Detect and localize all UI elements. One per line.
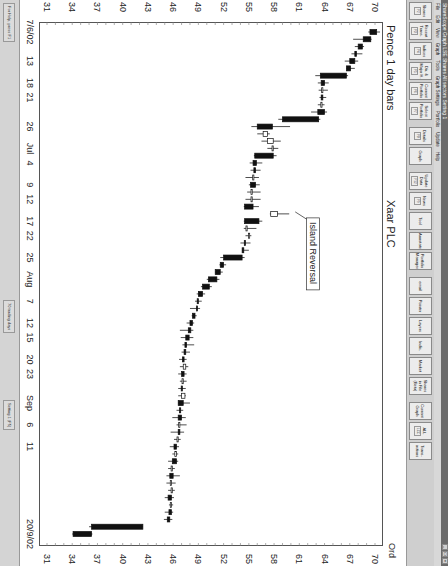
- toolbar-button-label: Graph: [418, 150, 423, 161]
- toolbar-button-label: Portfolio Manager: [416, 253, 426, 269]
- rotated-screenshot: ShareScope Graph LSE Shares All sectors …: [0, 0, 448, 566]
- status-bar: For Help, press F1 70 trading days Setti…: [0, 0, 20, 566]
- menu-bar: File Edit View Graph Tools Graph Setting…: [434, 0, 441, 566]
- toolbar-button-label: Dir. & Major H.: [420, 63, 430, 79]
- menu-portfolio[interactable]: Portfolio: [434, 111, 441, 128]
- shortcut-key-label: F3: [412, 27, 419, 35]
- window-title: ShareScope Graph LSE Shares All sectors …: [442, 3, 448, 119]
- shortcut-key-label: F7: [412, 107, 419, 115]
- toolbar-button-label: Update Data: [420, 173, 430, 189]
- window-controls: _ □ ×: [441, 544, 448, 564]
- shortcut-key-label: F5: [412, 67, 419, 75]
- toolbar-button-news[interactable]: NewsF9: [409, 192, 432, 210]
- toolbar-button-label: News: [422, 196, 427, 206]
- menu-graph[interactable]: Graph: [434, 43, 441, 56]
- toolbar-button-shares[interactable]: SharesF2: [409, 2, 432, 20]
- toolbar-button-recent-trans[interactable]: Recent Trans.F3: [409, 22, 432, 40]
- toolbar-button-label: Annotate: [418, 233, 423, 249]
- island-reversal-annotation: Island Reversal: [307, 222, 317, 284]
- toolbar-button-label: Trans-actions: [416, 443, 426, 459]
- shortcut-key-label: F6: [412, 87, 419, 95]
- shortcut-key-label: F12: [412, 176, 419, 185]
- toolbar-button-portfolio-manager[interactable]: Portfolio Manager: [409, 252, 432, 270]
- toolbar-button-tool[interactable]: Tool: [409, 212, 432, 230]
- minimize-button[interactable]: _: [442, 544, 448, 550]
- toolbar-button-details[interactable]: DetailsF8: [409, 127, 432, 145]
- shortcut-key-label: F2: [414, 7, 421, 15]
- toolbar-button-market[interactable]: Market: [409, 357, 432, 375]
- toolbar-button-update-data[interactable]: Update DataF12: [409, 172, 432, 190]
- toolbar-button-current-portfolio[interactable]: Current PortfolioF6: [409, 82, 432, 100]
- menu-file[interactable]: File: [434, 3, 441, 10]
- menu-help[interactable]: Help: [434, 152, 441, 161]
- shortcut-key-label: LCC: [414, 426, 421, 436]
- maximize-button[interactable]: □: [442, 551, 448, 557]
- toolbar-button-graph[interactable]: Graph: [409, 147, 432, 165]
- toolbar-button-label: Layers: [418, 320, 423, 332]
- toolbar-button-current-graph[interactable]: Current Graph: [409, 402, 432, 420]
- title-bar: ShareScope Graph LSE Shares All sectors …: [441, 0, 448, 566]
- chart-area: Pence 1 day bars Xaar PLC Ord 7070676764…: [20, 0, 405, 566]
- toolbar-button-trans-actions[interactable]: Trans-actions: [409, 442, 432, 460]
- toolbar-button-label: Market: [418, 360, 423, 372]
- shortcut-key-label: F9: [414, 197, 421, 205]
- status-help: For Help, press F1: [3, 3, 15, 42]
- candlestick-plot: Island Reversal: [20, 0, 405, 566]
- toolbar-button-label: Select Portfolio: [420, 103, 430, 119]
- menu-tools[interactable]: Tools: [434, 60, 441, 71]
- toolbar-button-label: Shares in File (Beta): [413, 378, 428, 394]
- shortcut-key-label: F4: [414, 47, 421, 55]
- toolbar-button-indic[interactable]: Indic.: [409, 337, 432, 355]
- toolbar-button-annotate[interactable]: Annotate: [409, 232, 432, 250]
- menu-graph-settings[interactable]: Graph Settings: [434, 76, 441, 106]
- toolbar-button-label: Current Portfolio: [420, 83, 430, 99]
- sharescope-window: ShareScope Graph LSE Shares All sectors …: [0, 0, 448, 566]
- toolbar-button-label: Recent Trans.: [420, 23, 430, 39]
- toolbar-button-label: Details: [422, 130, 427, 142]
- toolbar-button-label: email: [418, 281, 423, 291]
- toolbar-button-label: Indices: [422, 45, 427, 58]
- toolbar-button-email[interactable]: email: [409, 277, 432, 295]
- toolbar-button-label: ALL: [422, 427, 427, 434]
- toolbar-button-pointer[interactable]: Pointer: [409, 297, 432, 315]
- menu-edit[interactable]: Edit: [434, 15, 441, 23]
- toolbar: SharesF2Recent Trans.F3IndicesF4Dir. & M…: [406, 0, 434, 566]
- toolbar-button-label: Pointer: [418, 300, 423, 313]
- toolbar-button-dir-major-h[interactable]: Dir. & Major H.F5: [409, 62, 432, 80]
- close-button[interactable]: ×: [442, 558, 448, 564]
- menu-update[interactable]: Update: [434, 132, 441, 147]
- toolbar-button-label: Current Graph: [416, 403, 426, 419]
- toolbar-button-select-portfolio[interactable]: Select PortfolioF7: [409, 102, 432, 120]
- toolbar-button-label: Indic.: [418, 341, 423, 351]
- toolbar-button-all[interactable]: ALLLCC: [409, 422, 432, 440]
- toolbar-button-indices[interactable]: IndicesF4: [409, 42, 432, 60]
- menu-view[interactable]: View: [434, 28, 441, 38]
- toolbar-button-shares-in-file-beta[interactable]: Shares in File (Beta): [409, 377, 432, 395]
- shortcut-key-label: F8: [414, 132, 421, 140]
- toolbar-button-layers[interactable]: Layers: [409, 317, 432, 335]
- toolbar-button-label: Shares: [422, 5, 427, 18]
- status-trading-days: 70 trading days: [3, 300, 15, 333]
- status-setting[interactable]: Setting 1 (F5): [3, 400, 15, 430]
- toolbar-button-label: Tool: [418, 217, 423, 224]
